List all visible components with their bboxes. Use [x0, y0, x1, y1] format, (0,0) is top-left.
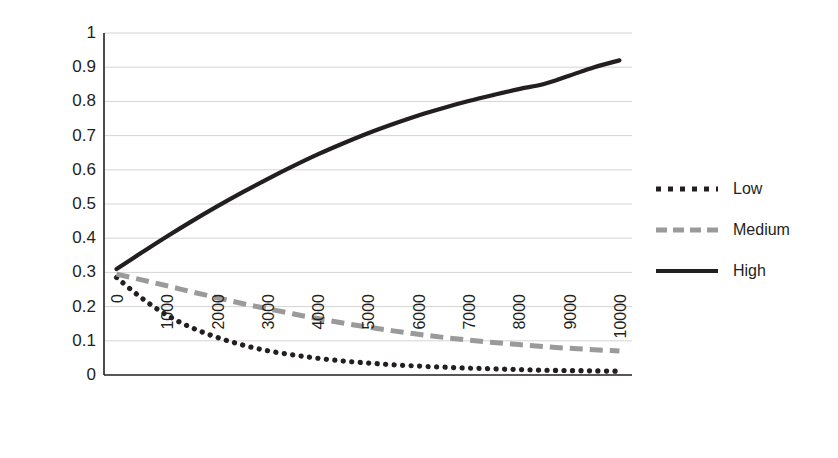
x-tick-label: 6000: [412, 294, 428, 384]
y-tick-label: 1: [36, 24, 96, 41]
y-tick-label: 0.2: [36, 298, 96, 315]
legend-label-low: Low: [733, 180, 762, 198]
y-tick-label: 0.6: [36, 161, 96, 178]
y-tick-label: 0.3: [36, 263, 96, 280]
legend-label-medium: Medium: [733, 221, 790, 239]
y-tick-label: 0.7: [36, 127, 96, 144]
x-tick-label: 10000: [613, 294, 629, 384]
y-tick-label: 0.5: [36, 195, 96, 212]
x-tick-label: 7000: [462, 294, 478, 384]
y-tick-label: 0.1: [36, 332, 96, 349]
x-tick-label: 3000: [261, 294, 277, 384]
legend-item-high[interactable]: High: [654, 250, 834, 291]
chart-legend: Low Medium High: [654, 168, 834, 291]
x-tick-label: 5000: [361, 294, 377, 384]
x-tick-label: 8000: [512, 294, 528, 384]
x-tick-label: 4000: [311, 294, 327, 384]
legend-swatch-high: [654, 264, 720, 278]
legend-label-high: High: [733, 262, 766, 280]
series-line-high: [117, 60, 620, 269]
y-tick-label: 0.8: [36, 92, 96, 109]
legend-swatch-medium: [654, 223, 720, 237]
legend-item-medium[interactable]: Medium: [654, 209, 834, 250]
legend-item-low[interactable]: Low: [654, 168, 834, 209]
y-tick-label: 0.4: [36, 229, 96, 246]
x-tick-label: 0: [110, 294, 126, 384]
y-tick-label: 0.9: [36, 58, 96, 75]
y-tick-label: 0: [36, 366, 96, 383]
x-tick-label: 2000: [211, 294, 227, 384]
legend-swatch-low: [654, 182, 720, 196]
x-tick-label: 1000: [160, 294, 176, 384]
x-tick-label: 9000: [563, 294, 579, 384]
chart-container: Predicted Probability 00.10.20.30.40.50.…: [0, 0, 838, 458]
